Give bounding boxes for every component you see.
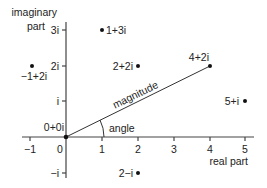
point-origin — [64, 135, 69, 140]
y-tick-label: 3i — [51, 24, 59, 36]
angle-label: angle — [109, 122, 135, 134]
complex-plane-diagram: −1 0 1 2 3 4 5 3i 2i i −i imaginary part… — [0, 0, 267, 188]
point-label: 4+2i — [189, 51, 209, 63]
point-label: −1+2i — [21, 70, 47, 82]
x-tick-label: 1 — [99, 143, 105, 155]
magnitude-vector — [66, 66, 210, 137]
y-axis-label: imaginary — [11, 6, 57, 18]
point-label: 1+3i — [106, 24, 126, 36]
point-1+3i — [100, 28, 104, 32]
point-5+i — [243, 99, 247, 103]
point-label: 5+i — [225, 95, 239, 107]
x-tick-label: 3 — [171, 143, 177, 155]
x-tick-label: −1 — [24, 143, 36, 155]
x-axis-label: real part — [209, 155, 248, 167]
y-tick-label: 2i — [51, 60, 59, 72]
y-axis-label: part — [27, 20, 45, 32]
point-minus1+2i — [30, 64, 34, 68]
point-4+2i — [208, 64, 212, 68]
point-2+2i — [136, 64, 140, 68]
x-tick-label: 0 — [57, 143, 63, 155]
x-tick-label: 2 — [135, 143, 141, 155]
point-label: 2−i — [119, 167, 133, 179]
point-2-i — [136, 171, 140, 175]
x-ticks — [30, 137, 245, 141]
y-tick-label: i — [57, 95, 59, 107]
y-tick-label: −i — [51, 167, 59, 179]
x-tick-label: 5 — [242, 143, 248, 155]
x-tick-label: 4 — [207, 143, 213, 155]
angle-arc — [100, 120, 104, 137]
point-label: 2+2i — [113, 60, 133, 72]
point-label: 0+0i — [44, 121, 64, 133]
